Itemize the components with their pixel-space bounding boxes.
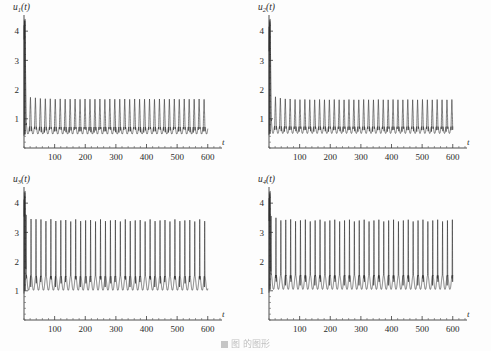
y-tick-label: 1 — [260, 114, 265, 124]
series-line-u3 — [24, 196, 208, 293]
plot-area-u3: 1002003004005006001234 — [0, 172, 245, 344]
y-axis-label-u1: u1(t) — [13, 2, 30, 13]
x-tick-label: 400 — [385, 152, 399, 162]
x-tick-label: 200 — [79, 324, 93, 334]
x-tick-label: 300 — [109, 152, 123, 162]
y-label-argument: (t) — [266, 174, 275, 184]
y-tick-label: 3 — [15, 56, 20, 66]
plot-area-u4: 1002003004005006001234 — [245, 172, 491, 344]
y-tick-label: 4 — [15, 198, 20, 208]
series-line-u2 — [269, 22, 453, 134]
y-tick-label: 1 — [15, 286, 20, 296]
y-axis-label-u4: u4(t) — [258, 174, 275, 185]
x-tick-label: 600 — [446, 324, 460, 334]
series-line-u4 — [269, 194, 453, 292]
x-tick-label: 100 — [293, 324, 307, 334]
y-tick-label: 2 — [15, 85, 20, 95]
x-tick-label: 200 — [324, 152, 338, 162]
subplot-grid: u1(t) t 1002003004005006001234 u2(t) t 1… — [0, 0, 491, 351]
y-tick-label: 4 — [260, 26, 265, 36]
y-tick-label: 4 — [15, 26, 20, 36]
caption-text: 图 的图形 — [231, 339, 269, 349]
subplot-u4: u4(t) t 1002003004005006001234 — [245, 172, 491, 344]
y-label-argument: (t) — [266, 2, 275, 12]
x-tick-label: 400 — [385, 324, 399, 334]
y-axis-label-u3: u3(t) — [13, 174, 30, 185]
y-tick-label: 3 — [260, 228, 265, 238]
x-tick-label: 400 — [140, 152, 154, 162]
figure-caption: 图 的图形 — [0, 337, 491, 351]
y-axis-label-u2: u2(t) — [258, 2, 275, 13]
x-tick-label: 600 — [201, 324, 215, 334]
y-tick-label: 2 — [15, 257, 20, 267]
caption-marker-icon — [221, 341, 228, 348]
x-axis-label-u1: t — [222, 137, 225, 147]
x-tick-label: 200 — [324, 324, 338, 334]
x-tick-label: 300 — [354, 152, 368, 162]
x-tick-label: 600 — [201, 152, 215, 162]
x-tick-label: 100 — [48, 324, 62, 334]
subplot-u2: u2(t) t 1002003004005006001234 — [245, 0, 491, 172]
y-label-argument: (t) — [21, 174, 30, 184]
x-tick-label: 500 — [170, 152, 184, 162]
x-tick-label: 500 — [415, 324, 429, 334]
subplot-u3: u3(t) t 1002003004005006001234 — [0, 172, 245, 344]
x-tick-label: 100 — [48, 152, 62, 162]
series-line-u1 — [24, 21, 208, 135]
y-tick-label: 2 — [260, 85, 265, 95]
x-tick-label: 500 — [170, 324, 184, 334]
x-axis-label-u3: t — [222, 309, 225, 319]
y-tick-label: 3 — [260, 56, 265, 66]
plot-area-u2: 1002003004005006001234 — [245, 0, 491, 172]
x-tick-label: 300 — [109, 324, 123, 334]
x-axis-label-u4: t — [467, 309, 470, 319]
x-tick-label: 300 — [354, 324, 368, 334]
x-axis-label-u2: t — [467, 137, 470, 147]
x-tick-label: 600 — [446, 152, 460, 162]
y-tick-label: 1 — [15, 114, 20, 124]
y-label-argument: (t) — [21, 2, 30, 12]
y-tick-label: 2 — [260, 257, 265, 267]
x-tick-label: 500 — [415, 152, 429, 162]
x-tick-label: 100 — [293, 152, 307, 162]
y-tick-label: 1 — [260, 286, 265, 296]
x-tick-label: 200 — [79, 152, 93, 162]
y-tick-label: 3 — [15, 228, 20, 238]
subplot-u1: u1(t) t 1002003004005006001234 — [0, 0, 245, 172]
plot-area-u1: 1002003004005006001234 — [0, 0, 245, 172]
y-tick-label: 4 — [260, 198, 265, 208]
x-tick-label: 400 — [140, 324, 154, 334]
